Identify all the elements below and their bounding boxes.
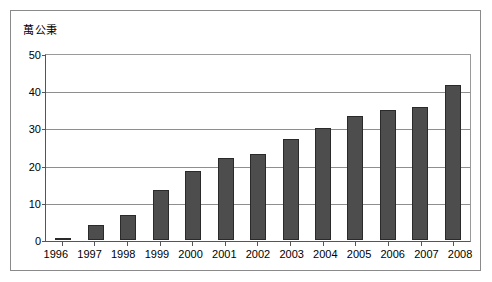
x-axis-tick-label: 2001	[207, 248, 241, 260]
x-axis-tick-mark	[192, 242, 193, 246]
bar	[315, 128, 331, 240]
y-axis-tick-label: 20	[29, 161, 41, 173]
x-axis-tick-slot	[111, 242, 144, 246]
x-axis-tick-label: 2000	[174, 248, 208, 260]
x-axis-tick-label: 1996	[39, 248, 73, 260]
y-axis-tick-label: 40	[29, 86, 41, 98]
x-axis-tick-mark	[160, 242, 161, 246]
y-axis-tick-label: 30	[29, 123, 41, 135]
x-axis-tick-mark	[421, 242, 422, 246]
x-axis-tick-label: 2004	[309, 248, 343, 260]
x-axis-tick-mark	[355, 242, 356, 246]
x-axis-tick-slot	[209, 242, 242, 246]
plot-area: 50403020100	[45, 54, 471, 242]
bar-slot	[144, 55, 176, 240]
x-axis-tick-label: 2008	[443, 248, 477, 260]
bar-slot	[79, 55, 111, 240]
x-axis-tick-slot	[274, 242, 307, 246]
bar-slot	[274, 55, 306, 240]
bar	[380, 110, 396, 240]
x-axis-tick-label: 2003	[275, 248, 309, 260]
x-axis-tick-slot	[437, 242, 470, 246]
x-axis-tick-mark	[290, 242, 291, 246]
bar-slot	[177, 55, 209, 240]
bar	[347, 116, 363, 240]
bar-slot	[209, 55, 241, 240]
x-axis-tick-label: 1998	[106, 248, 140, 260]
bar-slot	[242, 55, 274, 240]
y-axis-tick-label: 0	[35, 235, 41, 247]
bar	[153, 190, 169, 240]
bar-slot	[112, 55, 144, 240]
x-axis-tick-slot	[405, 242, 438, 246]
x-axis-tick-mark	[453, 242, 454, 246]
x-axis-tick-mark	[323, 242, 324, 246]
x-axis-tick-label: 1997	[73, 248, 107, 260]
bar	[412, 107, 428, 240]
bar-slot	[404, 55, 436, 240]
y-axis-tick-mark	[42, 55, 46, 56]
bar	[120, 215, 136, 240]
x-axis-tick-slot	[176, 242, 209, 246]
chart-frame: 萬公秉 50403020100 199619971998199920002001…	[10, 10, 481, 271]
y-axis-tick-label: 10	[29, 198, 41, 210]
x-axis-tick-mark	[94, 242, 95, 246]
x-axis-tick-label: 2002	[241, 248, 275, 260]
x-axis-tick-slot	[79, 242, 112, 246]
bar-slot	[47, 55, 79, 240]
x-axis-tick-labels: 1996199719981999200020012002200320042005…	[39, 248, 477, 260]
y-axis-tick-mark	[42, 167, 46, 168]
bar-slot	[307, 55, 339, 240]
y-axis-tick-mark	[42, 129, 46, 130]
x-axis-tick-mark	[225, 242, 226, 246]
bar-slot	[372, 55, 404, 240]
bar	[283, 139, 299, 240]
bar	[88, 225, 104, 240]
x-axis-tick-label: 2005	[342, 248, 376, 260]
bar	[218, 158, 234, 240]
bar-series	[47, 55, 469, 240]
bar-slot	[437, 55, 469, 240]
y-axis-tick-mark	[42, 204, 46, 205]
x-axis-tick-slot	[144, 242, 177, 246]
y-axis-tick-label: 50	[29, 49, 41, 61]
x-axis-tick-marks	[46, 242, 470, 246]
x-axis-tick-mark	[127, 242, 128, 246]
x-axis-tick-slot	[307, 242, 340, 246]
x-axis-tick-mark	[62, 242, 63, 246]
x-axis-tick-label: 1999	[140, 248, 174, 260]
x-axis-tick-mark	[388, 242, 389, 246]
x-axis-tick-slot	[46, 242, 79, 246]
x-axis-tick-slot	[242, 242, 275, 246]
x-axis-tick-slot	[339, 242, 372, 246]
bar	[185, 171, 201, 240]
y-axis-unit-title: 萬公秉	[23, 21, 58, 37]
bar	[55, 238, 71, 240]
y-axis-tick-mark	[42, 92, 46, 93]
x-axis-tick-label: 2007	[410, 248, 444, 260]
bar	[250, 154, 266, 240]
x-axis-tick-slot	[372, 242, 405, 246]
bar-slot	[339, 55, 371, 240]
x-axis-tick-label: 2006	[376, 248, 410, 260]
x-axis-tick-mark	[257, 242, 258, 246]
bar	[445, 85, 461, 240]
